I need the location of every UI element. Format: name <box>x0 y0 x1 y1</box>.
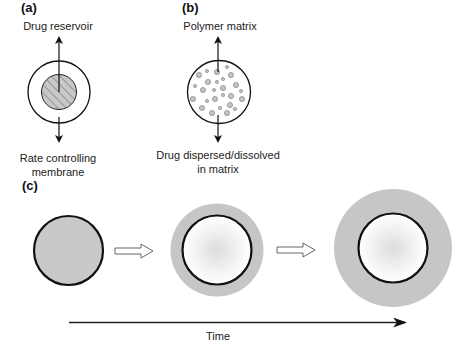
diagram-canvas: (a) (b) (c) Drug reservoir Rate controll… <box>0 0 466 354</box>
stage-2-core <box>183 216 252 285</box>
time-axis-label: Time <box>206 330 230 343</box>
stage-1-dry-matrix <box>34 216 103 285</box>
hollow-arrow-1 <box>115 244 153 258</box>
reservoir-system <box>28 38 90 141</box>
swelling-sequence <box>34 189 452 323</box>
stage-3-core <box>359 214 428 283</box>
matrix-system <box>188 38 251 141</box>
panel-a-tag: (a) <box>21 0 37 15</box>
drug-dispersed-label-line1: Drug dispersed/dissolved <box>156 149 280 162</box>
membrane-label-line1: Rate controlling <box>20 152 96 165</box>
hollow-arrow-2 <box>277 243 315 257</box>
panel-c-tag: (c) <box>22 178 38 193</box>
polymer-matrix-label: Polymer matrix <box>183 20 256 33</box>
drug-dispersed-label-line2: in matrix <box>197 163 239 176</box>
membrane-label-line2: membrane <box>32 166 85 179</box>
drug-reservoir-label: Drug reservoir <box>23 20 93 33</box>
panel-b-tag: (b) <box>182 0 199 15</box>
